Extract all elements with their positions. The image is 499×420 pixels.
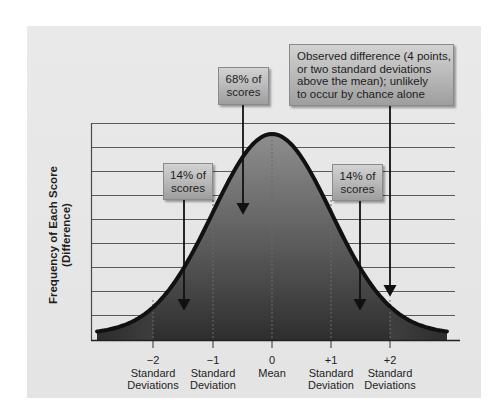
callout-left-line2: scores [171,182,205,195]
callout-68-line2: scores [227,86,261,99]
tick-value: +2 [350,354,430,367]
y-axis-label: Frequency of Each Score (Difference) [47,135,73,335]
tick-label-line2: Deviation [173,379,253,392]
callout-left-line1: 14% of [170,169,206,182]
callout-observed-line3: above the mean); unlikely [297,75,428,88]
callout-68-line1: 68% of [226,73,262,86]
callout-14-percent-right: 14% of scores [332,164,383,201]
callout-right-line2: scores [341,183,375,196]
y-axis-label-line1: Frequency of Each Score [47,135,60,335]
callout-68-percent: 68% of scores [218,67,269,105]
callout-observed-difference: Observed difference (4 points, or two st… [289,44,454,106]
callout-observed-line1: Observed difference (4 points, [297,50,451,63]
x-axis-ticks [153,341,390,348]
callout-observed-line4: to occur by chance alone [297,88,425,101]
y-axis-label-line2: (Difference) [60,135,73,335]
callout-observed-line2: or two standard deviations [297,63,431,76]
tick-label-line1: Standard [350,367,430,380]
callout-right-line1: 14% of [340,170,376,183]
x-tick-plus-2: +2 Standard Deviations [350,354,430,392]
callout-14-percent-left: 14% of scores [163,163,213,200]
tick-label-line2: Deviations [350,379,430,392]
